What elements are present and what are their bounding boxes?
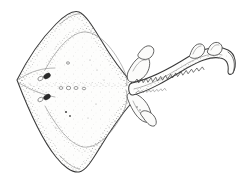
scapular-thorn: [65, 111, 67, 113]
illustration-canvas: [0, 0, 249, 180]
pelvic-base-dot: [139, 109, 140, 110]
nuchal-thorn: [67, 62, 70, 64]
accessory-pelvic-lobe: [138, 46, 154, 60]
stipple-accent: [96, 104, 97, 105]
pelvic-base-dot: [136, 106, 138, 108]
stipple-accent: [89, 59, 90, 60]
median-thorn: [74, 87, 78, 90]
median-thorn: [66, 86, 70, 89]
median-thorn: [82, 87, 85, 90]
stipple-accent: [30, 84, 31, 85]
median-thorn: [59, 87, 63, 90]
stipple-accent: [34, 92, 35, 93]
stipple-accent: [104, 80, 105, 81]
second-dorsal-fin: [207, 42, 222, 55]
stipple-accent: [56, 128, 57, 129]
stipple-accent: [88, 118, 89, 119]
skate-illustration: [0, 0, 249, 180]
stipple-accent: [97, 70, 98, 71]
scapular-thorn: [69, 115, 71, 117]
